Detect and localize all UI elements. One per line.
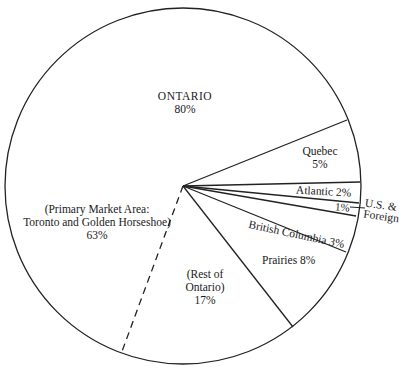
prairies-text: Prairies 8% [262, 254, 315, 267]
label-primary-market: (Primary Market Area: Toronto and Golden… [8, 203, 186, 242]
ontario-name: ONTARIO [140, 90, 230, 103]
quebec-pct: 5% [290, 158, 350, 171]
label-quebec: Quebec 5% [290, 145, 350, 171]
pma-line1: (Primary Market Area: [8, 203, 186, 216]
us-label-leader [350, 207, 365, 208]
rest-line1: (Rest of [170, 268, 240, 281]
label-us-pct: 1% [334, 200, 350, 214]
us-pct: 1% [334, 200, 350, 214]
quebec-name: Quebec [290, 145, 350, 158]
rest-line2: Ontario) [170, 281, 240, 294]
ontario-pct: 80% [140, 103, 230, 116]
rest-pct: 17% [170, 294, 240, 307]
label-prairies: Prairies 8% [262, 254, 315, 267]
label-rest-of-ontario: (Rest of Ontario) 17% [170, 268, 240, 307]
label-ontario: ONTARIO 80% [140, 90, 230, 116]
pma-pct: 63% [8, 229, 186, 242]
pma-line2: Toronto and Golden Horseshoe) [8, 216, 186, 229]
